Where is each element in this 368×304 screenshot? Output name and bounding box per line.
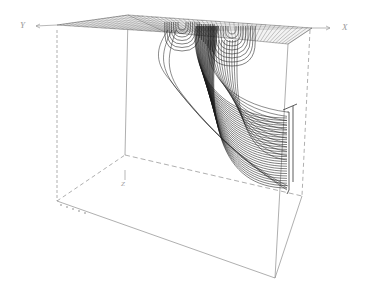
z-axis-label: Z bbox=[121, 180, 125, 188]
y-axis-label: Y bbox=[20, 20, 25, 30]
tick-marks bbox=[61, 204, 85, 214]
bounding-box bbox=[57, 16, 310, 278]
streamline-3d-plot bbox=[0, 0, 368, 304]
x-axis-label: X bbox=[342, 22, 348, 32]
streamlines bbox=[158, 22, 288, 190]
